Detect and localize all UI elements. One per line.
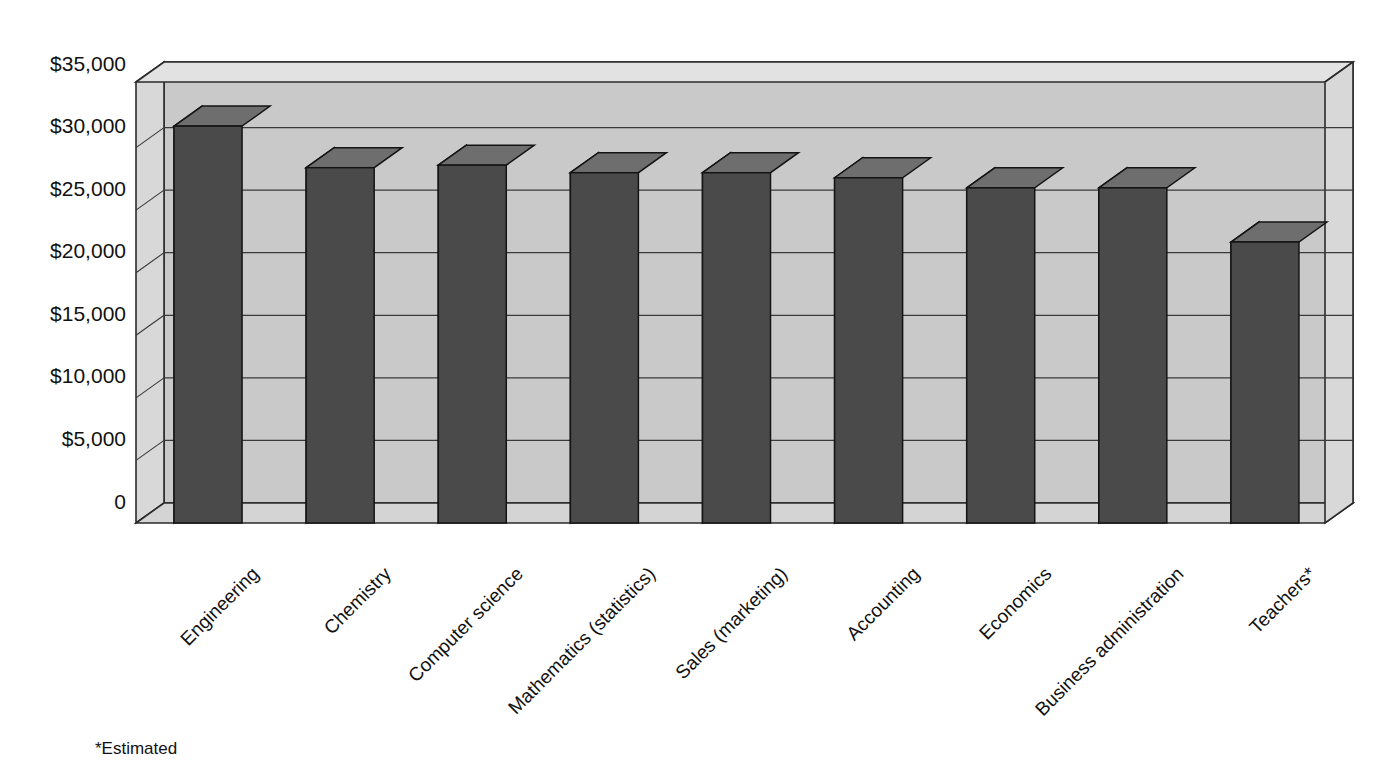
chart-canvas: $35,000 $30,000 $25,000 $20,000 $15,000 … bbox=[0, 0, 1387, 779]
bars-group bbox=[174, 106, 1327, 523]
y-tick-label: $10,000 bbox=[50, 364, 126, 387]
x-tick-label: Mathematics (statistics) bbox=[504, 563, 659, 718]
x-tick-label: Economics bbox=[975, 563, 1056, 644]
bar-front-face bbox=[438, 165, 506, 523]
footnote-estimated: *Estimated bbox=[95, 739, 177, 758]
bar-front-face bbox=[967, 188, 1035, 523]
bar-front-face bbox=[174, 126, 242, 523]
x-tick-label: Accounting bbox=[842, 563, 923, 644]
bar-front-face bbox=[1099, 188, 1167, 523]
right-wall-edge bbox=[1325, 62, 1353, 523]
bar-front-face bbox=[703, 173, 771, 523]
bar-front-face bbox=[570, 173, 638, 523]
y-tick-label: $35,000 bbox=[50, 52, 126, 75]
y-tick-label: $30,000 bbox=[50, 114, 126, 137]
y-tick-label: $15,000 bbox=[50, 302, 126, 325]
y-tick-label: $5,000 bbox=[62, 427, 126, 450]
x-tick-label: Engineering bbox=[176, 563, 263, 650]
x-axis-labels: EngineeringChemistryComputer scienceMath… bbox=[176, 563, 1320, 720]
x-tick-label: Teachers* bbox=[1245, 563, 1320, 638]
bar-front-face bbox=[306, 168, 374, 523]
y-tick-label: $25,000 bbox=[50, 177, 126, 200]
ceiling-strip bbox=[136, 62, 1353, 82]
y-tick-label: 0 bbox=[114, 490, 126, 513]
x-tick-label: Business administration bbox=[1031, 563, 1188, 720]
y-tick-label: $20,000 bbox=[50, 239, 126, 262]
bar-front-face bbox=[1231, 242, 1299, 523]
y-axis-labels: $35,000 $30,000 $25,000 $20,000 $15,000 … bbox=[50, 52, 126, 513]
bar-front-face bbox=[835, 178, 903, 523]
x-tick-label: Computer science bbox=[404, 563, 527, 686]
bar-chart-figure: $35,000 $30,000 $25,000 $20,000 $15,000 … bbox=[0, 0, 1387, 779]
x-tick-label: Chemistry bbox=[320, 563, 396, 639]
x-tick-label: Sales (marketing) bbox=[671, 563, 791, 683]
